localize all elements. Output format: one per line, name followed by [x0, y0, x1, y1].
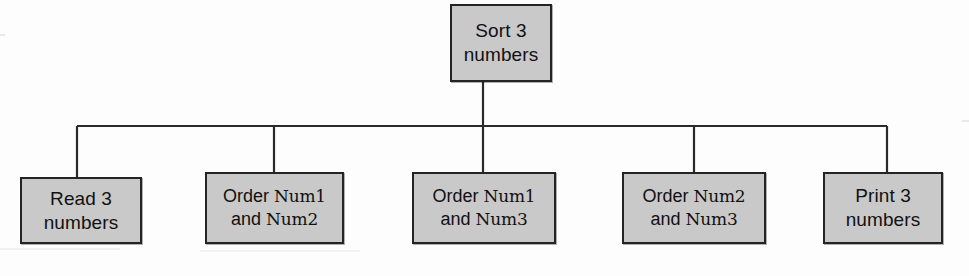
- node-label-line1: Print 3: [855, 184, 911, 208]
- node-label-prefix: Order: [223, 186, 274, 206]
- node-order-num2-num3[interactable]: Order Num2 and Num3: [622, 172, 766, 244]
- node-label-line1: Order Num1: [433, 185, 536, 208]
- node-label-variable: Num2: [694, 186, 746, 206]
- node-label-line2: and Num2: [231, 208, 318, 231]
- node-label-variable: Num3: [686, 209, 738, 229]
- node-label-line2: numbers: [464, 43, 539, 67]
- node-label-line2: numbers: [44, 211, 119, 235]
- node-order-num1-num2[interactable]: Order Num1 and Num2: [205, 172, 344, 244]
- scan-artifact: [200, 250, 360, 252]
- node-label-line2: numbers: [846, 208, 921, 232]
- scan-artifact: [0, 34, 5, 36]
- node-label-line1: Order Num1: [223, 185, 326, 208]
- node-label-prefix: and: [440, 209, 475, 229]
- node-label-line1: Order Num2: [643, 185, 746, 208]
- node-label-prefix: Order: [433, 186, 484, 206]
- node-sort-3-numbers[interactable]: Sort 3 numbers: [450, 4, 552, 82]
- node-label-line2: and Num3: [650, 208, 737, 231]
- structure-chart-diagram: Sort 3 numbers Read 3 numbers Order Num1…: [0, 0, 969, 276]
- node-label-prefix: Order: [643, 186, 694, 206]
- node-label-line1: Read 3: [50, 187, 112, 211]
- node-label-line1: Sort 3: [475, 19, 526, 43]
- scan-artifact: [962, 120, 969, 122]
- node-print-3-numbers[interactable]: Print 3 numbers: [823, 172, 943, 244]
- node-label-prefix: and: [650, 209, 685, 229]
- node-label-variable: Num1: [274, 186, 326, 206]
- node-label-variable: Num2: [266, 209, 318, 229]
- node-read-3-numbers[interactable]: Read 3 numbers: [20, 177, 142, 244]
- scan-artifact: [0, 248, 120, 250]
- node-label-line2: and Num3: [440, 208, 527, 231]
- node-order-num1-num3[interactable]: Order Num1 and Num3: [412, 172, 556, 244]
- node-label-variable: Num1: [484, 186, 536, 206]
- node-label-variable: Num3: [476, 209, 528, 229]
- node-label-prefix: and: [231, 209, 266, 229]
